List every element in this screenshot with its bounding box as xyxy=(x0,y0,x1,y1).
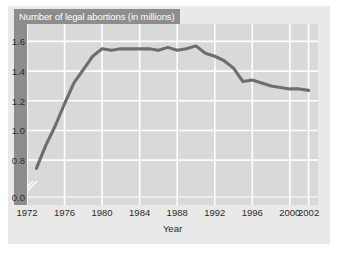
x-tick-label: 1972 xyxy=(16,207,37,218)
y-tick-label: 0.8 xyxy=(12,155,27,166)
x-axis-title: Year xyxy=(27,223,318,234)
y-tick-label: 0.0 xyxy=(12,192,27,203)
x-tick-label: 1996 xyxy=(242,207,263,218)
x-tick-label: 1984 xyxy=(129,207,150,218)
y-tick-label: 1.6 xyxy=(12,36,27,47)
chart-title: Number of legal abortions (in millions) xyxy=(14,9,180,24)
plot-svg xyxy=(27,24,318,205)
y-tick-label: 1.4 xyxy=(12,66,27,77)
x-tick-label: 2002 xyxy=(298,207,319,218)
plot-area xyxy=(27,24,318,205)
grid-lines xyxy=(27,24,318,205)
chart-figure: 0.00.81.01.21.41.6 197219761980198419881… xyxy=(0,0,338,257)
x-tick-label: 1988 xyxy=(167,207,188,218)
y-tick-label: 1.2 xyxy=(12,95,27,106)
data-line xyxy=(36,46,308,168)
x-tick-label: 1976 xyxy=(54,207,75,218)
x-axis-tick-labels: 197219761980198419881992199620002002 xyxy=(27,207,318,221)
y-tick-label: 1.0 xyxy=(12,125,27,136)
x-tick-label: 1980 xyxy=(92,207,113,218)
x-tick-label: 1992 xyxy=(204,207,225,218)
axis-break-mark xyxy=(27,181,37,191)
data-series-group xyxy=(36,46,308,168)
